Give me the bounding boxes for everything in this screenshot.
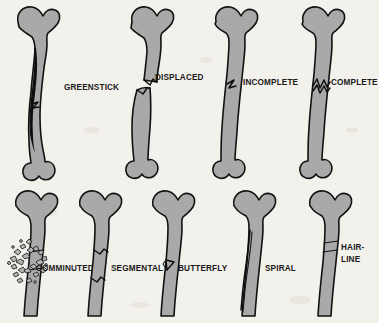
label-spiral: SPIRAL [265,264,296,273]
label-displaced: DISPLACED [155,73,204,82]
label-hairline-line2: LINE [341,255,361,264]
label-comminuted: COMMINUTED [36,264,94,273]
label-butterfly: BUTTERFLY [178,264,228,273]
label-complete: COMPLETE [331,78,378,87]
label-hairline-line1: HAIR- [341,243,365,252]
label-segmental: SEGMENTAL [111,264,163,273]
label-incomplete: INCOMPLETE [243,78,299,87]
label-greenstick: GREENSTICK [64,83,119,92]
fracture-types-figure: GREENSTICK DISPLACED INCOMPLETE COMPLETE [0,0,379,323]
